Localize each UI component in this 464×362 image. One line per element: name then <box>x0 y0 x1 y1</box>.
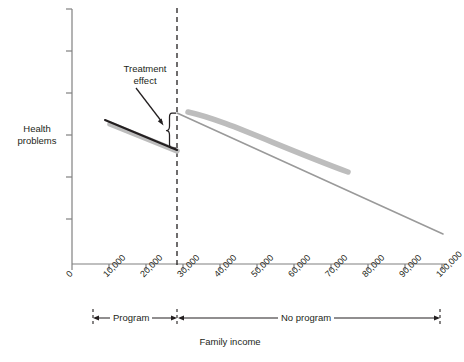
x-axis-label: Family income <box>160 336 300 347</box>
treatment-effect-label: Treatment effect <box>104 63 186 86</box>
y-axis-label-line2: problems <box>6 135 68 147</box>
treated-fit-line <box>105 120 177 150</box>
treatment-effect-brace <box>167 113 177 148</box>
treatment-effect-arrow <box>136 88 164 126</box>
untreated-observed-band <box>188 112 348 172</box>
y-axis-label: Health problems <box>6 123 68 146</box>
y-axis-ticks <box>66 9 72 219</box>
program-bracket-label: Program <box>110 312 152 323</box>
untreated-fit-line <box>177 113 443 234</box>
no-program-bracket-label: No program <box>278 312 334 323</box>
y-axis-label-line1: Health <box>6 123 68 135</box>
treatment-effect-label-line1: Treatment <box>104 63 186 75</box>
treatment-effect-label-line2: effect <box>104 75 186 87</box>
